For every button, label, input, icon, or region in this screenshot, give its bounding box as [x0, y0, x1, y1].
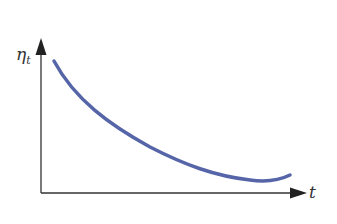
chart-canvas — [0, 0, 337, 224]
eta-curve — [54, 61, 290, 181]
y-axis-arrow-icon — [36, 38, 47, 55]
y-axis — [36, 38, 47, 193]
y-axis-label: ηt — [16, 44, 31, 67]
x-axis — [41, 188, 307, 199]
x-axis-arrow-icon — [290, 188, 307, 199]
x-axis-label: t — [309, 182, 316, 202]
